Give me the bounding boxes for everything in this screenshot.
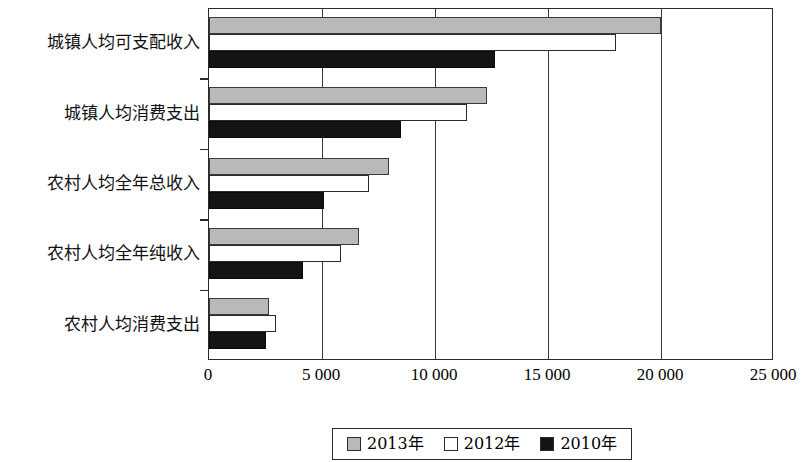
legend-label: 2013年 [367,436,424,452]
legend-label: 2010年 [560,436,617,452]
bar [209,121,401,138]
bar [209,228,359,245]
bar [209,245,341,262]
category-label: 农村人均全年纯收入 [47,245,200,262]
x-tick-label: 20 000 [637,366,684,383]
axis-tick [200,290,209,292]
x-tick-label: 5 000 [302,366,340,383]
x-tick-label: 0 [204,366,213,383]
x-tick-label: 15 000 [524,366,571,383]
white-swatch-icon [444,437,458,451]
bar [209,262,303,279]
axis-tick [200,219,209,221]
legend-item-2010[interactable]: 2010年 [540,436,617,452]
chart-legend: 2013年 2012年 2010年 [332,428,632,460]
category-label: 农村人均全年总收入 [47,175,200,192]
black-swatch-icon [540,437,554,451]
axis-tick [200,149,209,151]
x-tick-label: 25 000 [750,366,797,383]
x-axis-tick-labels: 05 00010 00015 00020 00025 000 [0,366,804,392]
plot-area [208,8,773,360]
bar [209,158,389,175]
category-label: 农村人均消费支出 [64,316,200,333]
bar [209,87,487,104]
bar [209,298,269,315]
category-label: 城镇人均消费支出 [64,105,200,122]
category-axis-labels: 农村人均消费支出 农村人均全年纯收入 农村人均全年总收入 城镇人均消费支出 城镇… [0,8,204,360]
axis-tick [200,78,209,80]
x-tick-label: 10 000 [411,366,458,383]
bar [209,17,661,34]
gray-swatch-icon [347,437,361,451]
legend-item-2013[interactable]: 2013年 [347,436,424,452]
bar [209,51,495,68]
bar [209,332,266,349]
bars-layer [209,9,772,359]
bar [209,315,276,332]
bar [209,192,324,209]
bar-chart: 农村人均消费支出 农村人均全年纯收入 农村人均全年总收入 城镇人均消费支出 城镇… [0,0,804,462]
legend-label: 2012年 [464,436,521,452]
bar [209,34,616,51]
category-label: 城镇人均可支配收入 [47,34,200,51]
legend-item-2012[interactable]: 2012年 [444,436,521,452]
bar [209,175,369,192]
bar [209,104,467,121]
